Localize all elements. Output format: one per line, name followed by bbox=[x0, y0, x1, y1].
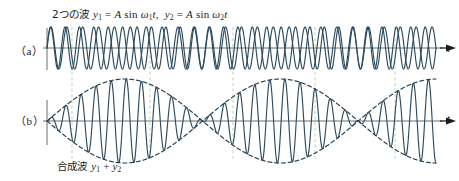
beats-figure: 2つの波 y1 = A sin ω1t, y2 = A sin ω2t 合成波 … bbox=[0, 0, 459, 181]
waveform-plot bbox=[0, 0, 459, 181]
